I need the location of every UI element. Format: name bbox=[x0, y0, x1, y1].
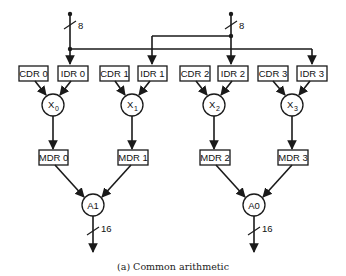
multiplier-x0: X 0 bbox=[42, 94, 64, 116]
adder-row: A1 A0 bbox=[82, 194, 265, 216]
svg-text:X: X bbox=[48, 99, 55, 110]
adder-a0: A0 bbox=[243, 194, 265, 216]
svg-text:A1: A1 bbox=[87, 200, 99, 211]
multiplier-x1: X 1 bbox=[121, 94, 143, 116]
multiplier-row: X 0 X 1 X 2 X 3 bbox=[42, 94, 303, 116]
svg-text:MDR 1: MDR 1 bbox=[118, 152, 148, 163]
bus-left: 8 bbox=[64, 12, 312, 64]
svg-text:IDR 3: IDR 3 bbox=[300, 68, 324, 79]
svg-text:2: 2 bbox=[216, 105, 220, 112]
bus-right: 8 bbox=[152, 12, 244, 64]
mdr-register-row: MDR 0 MDR 1 MDR 2 MDR 3 bbox=[39, 150, 308, 165]
input-register-row: CDR 0 IDR 0 CDR 1 IDR 1 CDR 2 IDR 2 CDR … bbox=[19, 66, 327, 81]
svg-text:0: 0 bbox=[55, 105, 59, 112]
svg-text:CDR 2: CDR 2 bbox=[181, 68, 210, 79]
svg-text:IDR 2: IDR 2 bbox=[221, 68, 245, 79]
svg-text:IDR 1: IDR 1 bbox=[140, 68, 164, 79]
register-idr-2: IDR 2 bbox=[218, 66, 248, 81]
adder-a0-output-width: 16 bbox=[262, 223, 273, 234]
svg-text:MDR 0: MDR 0 bbox=[39, 152, 69, 163]
bus-right-width-label: 8 bbox=[239, 20, 244, 31]
svg-text:MDR 3: MDR 3 bbox=[278, 152, 308, 163]
adder-a1: A1 bbox=[82, 194, 104, 216]
register-mdr-1: MDR 1 bbox=[118, 150, 148, 165]
svg-text:X: X bbox=[209, 99, 216, 110]
register-idr-3: IDR 3 bbox=[297, 66, 327, 81]
svg-text:1: 1 bbox=[134, 105, 138, 112]
register-cdr-0: CDR 0 bbox=[19, 66, 48, 81]
adder-outputs: 16 16 bbox=[87, 216, 273, 252]
multiplier-to-mdr-wires bbox=[53, 116, 292, 149]
register-idr-1: IDR 1 bbox=[138, 66, 167, 81]
register-idr-0: IDR 0 bbox=[58, 66, 88, 81]
svg-text:3: 3 bbox=[294, 105, 298, 112]
svg-text:CDR 0: CDR 0 bbox=[19, 68, 48, 79]
svg-text:MDR 2: MDR 2 bbox=[200, 152, 230, 163]
svg-text:CDR 1: CDR 1 bbox=[100, 68, 129, 79]
mdr-to-adder-wires bbox=[55, 165, 292, 197]
svg-text:X: X bbox=[287, 99, 294, 110]
figure-caption: (a) Common arithmetic bbox=[0, 261, 346, 272]
register-mdr-3: MDR 3 bbox=[278, 150, 308, 165]
register-cdr-1: CDR 1 bbox=[100, 66, 129, 81]
multiplier-x2: X 2 bbox=[203, 94, 225, 116]
svg-text:A0: A0 bbox=[248, 200, 260, 211]
multiplier-x3: X 3 bbox=[281, 94, 303, 116]
register-cdr-2: CDR 2 bbox=[180, 66, 210, 81]
register-mdr-2: MDR 2 bbox=[200, 150, 230, 165]
register-cdr-3: CDR 3 bbox=[258, 66, 288, 81]
register-mdr-0: MDR 0 bbox=[39, 150, 69, 165]
svg-text:CDR 3: CDR 3 bbox=[259, 68, 288, 79]
svg-text:IDR 0: IDR 0 bbox=[61, 68, 85, 79]
adder-a1-output-width: 16 bbox=[101, 223, 112, 234]
svg-text:X: X bbox=[127, 99, 134, 110]
arithmetic-block-diagram: 8 8 CDR 0 IDR 0 CDR 1 IDR 1 bbox=[0, 0, 346, 276]
bus-left-width-label: 8 bbox=[78, 20, 83, 31]
register-to-multiplier-wires bbox=[35, 81, 310, 95]
